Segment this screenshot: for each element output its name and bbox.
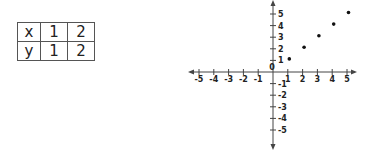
y-tick-label: 3 [278, 33, 284, 42]
y-tick-label: 2 [278, 45, 284, 54]
y-tick-label: -4 [278, 114, 287, 123]
origin-label: 0 [269, 63, 275, 72]
x-tick-label: 2 [300, 75, 306, 84]
data-point [347, 11, 351, 15]
data-point [302, 46, 306, 50]
y-tick-label: -2 [278, 91, 287, 100]
x-axis-right-arrow-icon [351, 70, 357, 75]
y-tick-label: -1 [278, 80, 287, 89]
data-point [317, 34, 321, 38]
x-tick-label: -2 [239, 75, 248, 84]
y-tick-label: -3 [278, 103, 287, 112]
coordinate-plane: -5-4-3-2-11234554321-1-2-3-4-50 [0, 0, 367, 152]
x-tick-label: -3 [224, 75, 233, 84]
x-axis-left-arrow-icon [188, 70, 194, 75]
y-tick-label: 1 [278, 56, 284, 65]
x-tick-label: -5 [195, 75, 204, 84]
y-axis-up-arrow-icon [271, 0, 276, 6]
y-tick-label: 4 [278, 22, 284, 31]
data-point [288, 57, 292, 61]
x-tick-label: -4 [209, 75, 218, 84]
y-tick-label: -5 [278, 126, 287, 135]
x-tick-label: 5 [344, 75, 350, 84]
x-tick-label: 3 [315, 75, 321, 84]
y-tick-label: 5 [278, 10, 284, 19]
x-tick-label: -1 [254, 75, 263, 84]
data-points [288, 11, 351, 61]
x-tick-label: 4 [329, 75, 335, 84]
data-point [332, 22, 336, 26]
y-axis-down-arrow-icon [271, 144, 276, 150]
